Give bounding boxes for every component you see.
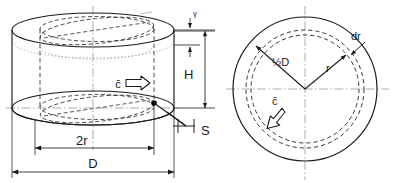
height-label: H — [184, 67, 193, 82]
gap-label: S — [201, 123, 210, 138]
plan-velocity-arrow-group: c̄ — [267, 95, 285, 129]
plan-velocity-label: c̄ — [272, 95, 278, 107]
half-diameter-label: ½D — [272, 56, 289, 68]
plan-centerlines — [226, 6, 389, 180]
dr-leader-line — [351, 42, 365, 55]
velocity-block-arrow-icon — [126, 76, 150, 90]
bottom-inner-ellipse — [40, 95, 154, 120]
elevation-velocity-label: c̄ — [115, 78, 121, 90]
diagram-canvas: c̄ γ H — [0, 0, 395, 183]
s-leader-lines — [154, 103, 186, 126]
radius-r: r — [305, 55, 346, 89]
half-diameter-radius: ½D — [256, 46, 305, 89]
hidden-construction-chords — [44, 22, 150, 116]
radius-r-label: r — [326, 62, 330, 74]
chord-top — [44, 22, 150, 38]
collar-inner-arc — [40, 47, 152, 59]
two-r-label: 2r — [76, 133, 88, 148]
top-inner-ellipse — [40, 17, 154, 42]
height-dimension: H — [174, 31, 215, 108]
plan-view: ½D r dr c̄ — [226, 6, 389, 180]
s-leader-lower — [167, 112, 186, 126]
gamma-dimension: γ — [174, 9, 215, 57]
diameter-label: D — [88, 156, 97, 171]
dr-dimension: dr — [351, 30, 365, 55]
technical-drawing: c̄ γ H — [0, 0, 395, 183]
elevation-view: c̄ γ H — [6, 6, 215, 178]
elevation-velocity-arrow-group: c̄ — [115, 76, 150, 90]
elevation-centerlines — [6, 6, 178, 150]
dr-label: dr — [351, 30, 361, 42]
gap-dimension: S — [173, 119, 210, 138]
gamma-label: γ — [193, 9, 197, 18]
plan-velocity-block-arrow-icon — [267, 108, 285, 128]
top-rim-tick — [140, 12, 152, 14]
